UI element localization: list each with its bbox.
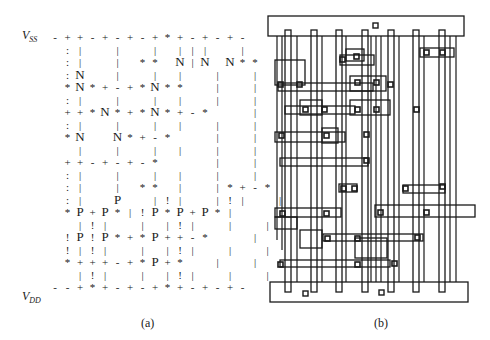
- grid-symbol: *: [87, 81, 99, 93]
- grid-symbol: +: [124, 231, 136, 243]
- grid-symbol: *: [137, 81, 149, 93]
- grid-symbol: *: [137, 56, 149, 68]
- grid-symbol: |: [249, 81, 261, 93]
- grid-symbol: -: [187, 231, 199, 243]
- grid-symbol: N: [149, 81, 161, 93]
- grid-symbol: -: [237, 281, 249, 293]
- grid-symbol: |: [174, 144, 186, 156]
- grid-symbol: +: [149, 31, 161, 43]
- grid-symbol: +: [62, 31, 74, 43]
- grid-symbol: +: [87, 256, 99, 268]
- grid-symbol: N: [199, 56, 211, 68]
- grid-symbol: |: [187, 56, 199, 68]
- grid-symbol: |: [74, 94, 86, 106]
- grid-symbol: |: [237, 194, 249, 206]
- grid-symbol: |: [74, 269, 86, 281]
- layout-panel: (b): [262, 0, 490, 340]
- grid-symbol: P: [149, 256, 161, 268]
- grid-symbol: +: [162, 231, 174, 243]
- grid-symbol: |: [224, 244, 236, 256]
- grid-symbol: :: [62, 181, 74, 193]
- grid-symbol: :: [62, 169, 74, 181]
- grid-symbol: P: [174, 206, 186, 218]
- grid-symbol: +: [124, 256, 136, 268]
- grid-symbol: *: [112, 231, 124, 243]
- grid-symbol: +: [99, 156, 111, 168]
- grid-symbol: |: [174, 69, 186, 81]
- grid-symbol: +: [174, 281, 186, 293]
- grid-symbol: |: [212, 256, 224, 268]
- grid-symbol: |: [249, 231, 261, 243]
- grid-symbol: |: [174, 181, 186, 193]
- grid-symbol: N: [174, 56, 186, 68]
- grid-symbol: :: [62, 94, 74, 106]
- grid-symbol: -: [87, 31, 99, 43]
- grid-symbol: !: [62, 231, 74, 243]
- grid-symbol: -: [112, 81, 124, 93]
- grid-symbol: |: [112, 144, 124, 156]
- grid-symbol: |: [212, 156, 224, 168]
- grid-symbol: *: [112, 206, 124, 218]
- grid-symbol: |: [124, 206, 136, 218]
- grid-symbol: |: [249, 69, 261, 81]
- grid-symbol: +: [224, 281, 236, 293]
- grid-symbol: |: [137, 269, 149, 281]
- grid-symbol: *: [149, 181, 161, 193]
- grid-symbol: |: [112, 56, 124, 68]
- grid-symbol: *: [224, 181, 236, 193]
- grid-symbol: +: [199, 281, 211, 293]
- grid-symbol: +: [62, 106, 74, 118]
- grid-symbol: +: [224, 31, 236, 43]
- grid-symbol: |: [249, 131, 261, 143]
- grid-symbol: +: [99, 31, 111, 43]
- grid-symbol: *: [249, 56, 261, 68]
- grid-symbol: +: [149, 281, 161, 293]
- grid-symbol: *: [137, 106, 149, 118]
- grid-symbol: -: [137, 156, 149, 168]
- grid-symbol: *: [137, 231, 149, 243]
- grid-symbol: :: [62, 119, 74, 131]
- grid-symbol: +: [74, 31, 86, 43]
- grid-symbol: +: [74, 256, 86, 268]
- grid-symbol: -: [137, 31, 149, 43]
- grid-symbol: |: [249, 256, 261, 268]
- layout-drawing: [262, 0, 490, 340]
- grid-symbol: *: [199, 106, 211, 118]
- grid-symbol: |: [249, 119, 261, 131]
- grid-symbol: +: [162, 256, 174, 268]
- grid-symbol: +: [124, 81, 136, 93]
- grid-symbol: !: [87, 244, 99, 256]
- grid-symbol: -: [112, 156, 124, 168]
- grid-symbol: N: [112, 131, 124, 143]
- grid-symbol: +: [187, 206, 199, 218]
- grid-symbol: +: [174, 31, 186, 43]
- grid-symbol: N: [224, 56, 236, 68]
- grid-symbol: *: [199, 231, 211, 243]
- caption-b: (b): [374, 316, 388, 331]
- grid-symbol: |: [212, 181, 224, 193]
- grid-symbol: |: [99, 244, 111, 256]
- grid-symbol: |: [174, 169, 186, 181]
- grid-symbol: |: [212, 69, 224, 81]
- vdd-label: VDD: [22, 289, 41, 305]
- grid-symbol: !: [224, 194, 236, 206]
- caption-a: (a): [141, 316, 154, 331]
- grid-symbol: |: [212, 169, 224, 181]
- grid-symbol: -: [112, 31, 124, 43]
- grid-symbol: |: [212, 81, 224, 93]
- grid-symbol: P: [199, 206, 211, 218]
- grid-symbol: |: [149, 144, 161, 156]
- grid-symbol: |: [212, 194, 224, 206]
- grid-symbol: !: [174, 219, 186, 231]
- grid-symbol: +: [99, 81, 111, 93]
- grid-symbol: -: [149, 131, 161, 143]
- grid-symbol: +: [74, 156, 86, 168]
- grid-symbol: +: [174, 231, 186, 243]
- grid-symbol: |: [149, 44, 161, 56]
- grid-symbol: |: [74, 181, 86, 193]
- grid-symbol: *: [62, 81, 74, 93]
- grid-symbol: :: [62, 194, 74, 206]
- grid-symbol: *: [87, 106, 99, 118]
- grid-symbol: N: [74, 81, 86, 93]
- grid-symbol: *: [62, 131, 74, 143]
